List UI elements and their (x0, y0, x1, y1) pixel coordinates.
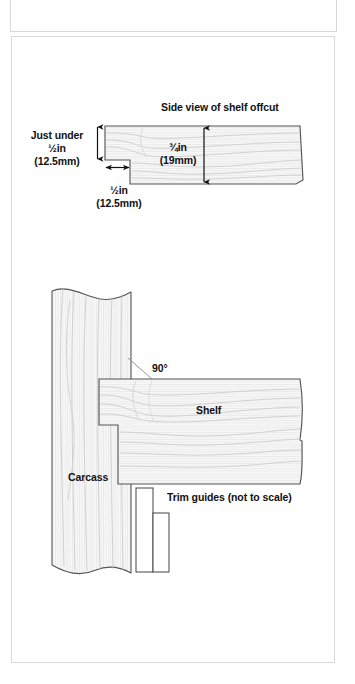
trim-guide-tall (136, 488, 153, 572)
left-dimension-value: ½in (48, 142, 66, 154)
board-thickness-value: ¾in (169, 141, 187, 153)
angle-leader-line (128, 358, 152, 379)
board-thickness-metric: (19mm) (160, 154, 197, 166)
left-dimension-metric: (12.5mm) (34, 155, 79, 167)
shelf-label: Shelf (196, 404, 221, 417)
angle-label: 90° (152, 362, 168, 375)
step-width-dimension-label: ½in (12.5mm) (80, 184, 158, 210)
carcass-label: Carcass (68, 471, 108, 484)
step-width-value: ½in (110, 184, 128, 196)
board-thickness-dimension-label: ¾in (19mm) (152, 141, 204, 167)
left-dimension-label: Just under ½in (12.5mm) (21, 129, 93, 168)
shelf-board (99, 379, 305, 484)
left-dimension-text: Just under (31, 129, 84, 141)
diagram-canvas: Side view of shelf offcut Just under ½in… (0, 0, 355, 684)
step-width-metric: (12.5mm) (96, 197, 141, 209)
offcut-panel-title: Side view of shelf offcut (161, 101, 279, 114)
trim-guides-label: Trim guides (not to scale) (167, 491, 292, 504)
trim-guide-short (153, 513, 169, 572)
